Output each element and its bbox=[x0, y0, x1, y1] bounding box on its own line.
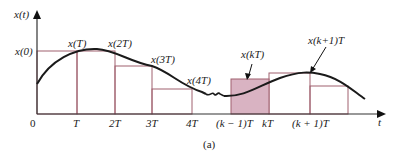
sample-label-x4T: x(4T) bbox=[186, 74, 211, 87]
y-axis-label: x(t) bbox=[13, 8, 30, 21]
y-tick-label: x(0) bbox=[14, 45, 33, 58]
x-tick-kT: kT bbox=[262, 117, 274, 129]
x-tick-3T: 3T bbox=[145, 117, 159, 129]
sample-label-xk1T: x(k+1)T bbox=[307, 34, 345, 47]
sample-label-x2T: x(2T) bbox=[107, 37, 132, 50]
x-tick-k-1T: (k − 1)T bbox=[216, 117, 254, 130]
axis-break-icon bbox=[206, 93, 224, 96]
y-axis-arrow-icon bbox=[33, 10, 41, 19]
x-tick-T: T bbox=[73, 117, 80, 129]
figure-caption: (a) bbox=[203, 138, 216, 151]
sample-label-x3T: x(3T) bbox=[150, 53, 175, 66]
sampled-signal-diagram: x(t) x(0) t 0 T 2T 3T 4T (k − 1)T kT (k … bbox=[0, 0, 396, 161]
x-tick-0: 0 bbox=[30, 117, 36, 129]
sample-label-xT: x(T) bbox=[67, 37, 87, 50]
arrow-xk1T bbox=[312, 47, 326, 70]
signal-curve bbox=[37, 49, 206, 94]
sample-label-xkT: x(kT) bbox=[240, 48, 265, 61]
x-tick-2T: 2T bbox=[109, 117, 122, 129]
x-tick-k+1T: (k + 1)T bbox=[292, 117, 330, 130]
x-axis-label: t bbox=[378, 116, 382, 128]
x-tick-4T: 4T bbox=[186, 117, 199, 129]
